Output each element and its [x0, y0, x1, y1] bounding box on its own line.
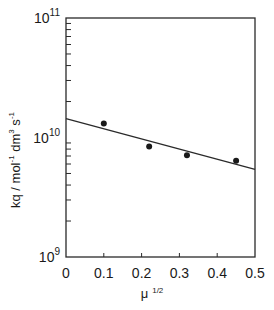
data-point-marker [146, 144, 152, 150]
fit-line-segment [66, 119, 255, 170]
fit-line [66, 119, 255, 170]
plot-frame [66, 18, 255, 257]
y-axis-ticks: 10910101011 [33, 7, 71, 265]
y-axis-label: kq / mol-1 dm3 s-1 [0, 60, 30, 260]
data-point-marker [101, 120, 107, 126]
chart-plot: 10910101011 00.10.20.30.40.5 [0, 0, 274, 310]
xlabel-mu: μ [141, 286, 149, 301]
ylabel-exp2: 3 [7, 129, 16, 133]
x-tick-label: 0.4 [207, 265, 227, 281]
ylabel-exp3: -1 [7, 112, 16, 119]
data-points [101, 120, 239, 163]
ylabel-s: s [8, 119, 23, 129]
data-point-marker [233, 158, 239, 164]
ylabel-dm: dm [8, 134, 23, 156]
ylabel-exp1: -1 [7, 155, 16, 162]
x-tick-label: 0.3 [170, 265, 190, 281]
plot-border [66, 18, 255, 257]
x-tick-label: 0.1 [94, 265, 114, 281]
x-tick-label: 0.2 [132, 265, 152, 281]
x-tick-label: 0 [62, 265, 70, 281]
x-tick-label: 0.5 [245, 265, 265, 281]
x-axis-label: μ1/2 [141, 286, 164, 301]
y-tick-label: 1010 [33, 127, 60, 146]
xlabel-exp: 1/2 [152, 286, 163, 295]
y-tick-label: 1011 [34, 7, 60, 26]
ylabel-kq: kq / mol [8, 162, 23, 208]
y-tick-label: 109 [39, 246, 61, 265]
data-point-marker [184, 152, 190, 158]
